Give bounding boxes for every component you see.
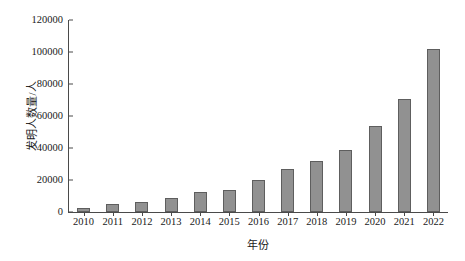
- x-tick-label: 2011: [102, 217, 123, 228]
- bar: [310, 161, 323, 212]
- x-tick-label: 2019: [335, 217, 356, 228]
- bar: [398, 99, 411, 212]
- bar: [106, 204, 119, 212]
- x-tick-label: 2010: [73, 217, 94, 228]
- bar: [223, 190, 236, 212]
- bar: [281, 169, 294, 212]
- bar: [427, 49, 440, 212]
- x-tick-label: 2016: [248, 217, 269, 228]
- x-tick-label: 2013: [161, 217, 182, 228]
- y-tick-label: 40000: [37, 143, 69, 154]
- plot-area: 020000400006000080000100000120000 201020…: [68, 20, 448, 213]
- bar: [194, 192, 207, 212]
- bar: [252, 180, 265, 212]
- bar: [339, 150, 352, 212]
- x-tick-label: 2012: [131, 217, 152, 228]
- y-tick-label: 80000: [37, 79, 69, 90]
- x-tick-label: 2020: [365, 217, 386, 228]
- y-tick-label: 100000: [32, 47, 70, 58]
- bar-chart-figure: 发明人数量/人 02000040000600008000010000012000…: [0, 0, 465, 261]
- y-tick-label: 120000: [32, 15, 70, 26]
- y-tick-label: 60000: [37, 111, 69, 122]
- x-tick-label: 2015: [219, 217, 240, 228]
- y-tick-label: 20000: [37, 175, 69, 186]
- y-tick-label: 0: [58, 207, 69, 218]
- x-tick-label: 2014: [190, 217, 211, 228]
- bar: [369, 126, 382, 212]
- x-tick-label: 2021: [394, 217, 415, 228]
- x-tick-label: 2022: [423, 217, 444, 228]
- x-axis-title: 年份: [68, 236, 447, 252]
- x-tick-label: 2017: [277, 217, 298, 228]
- x-tick-label: 2018: [306, 217, 327, 228]
- bar: [165, 198, 178, 212]
- bar-series: [69, 20, 448, 212]
- bar: [135, 202, 148, 212]
